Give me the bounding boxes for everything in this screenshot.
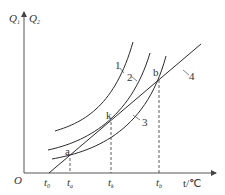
origin-label: O [14,174,22,186]
tick-tb: tb [156,176,162,189]
point-k-label: k [106,109,112,121]
curve-1 [55,42,133,131]
curve-label-3: 3 [142,116,148,128]
leader-2 [132,77,137,81]
x-axis-label: t/℃ [183,177,201,189]
curve-label-2: 2 [127,71,133,83]
curve-label-4: 4 [189,70,195,82]
line-4 [49,44,201,173]
y-label-q2: Q2 [29,12,40,25]
curve-label-1: 1 [115,59,121,71]
point-b-label: b [153,66,159,78]
heat-balance-diagram: Q1 Q2 O 1 2 3 4 a k b t0 ta tk tb t/℃ [0,0,225,195]
tick-t0: t0 [44,176,50,189]
y-label-q1: Q1 [9,12,20,25]
point-a-label: a [65,145,70,157]
curve-2 [48,53,150,150]
tick-ta: ta [67,176,73,189]
tick-tk: tk [108,176,114,189]
